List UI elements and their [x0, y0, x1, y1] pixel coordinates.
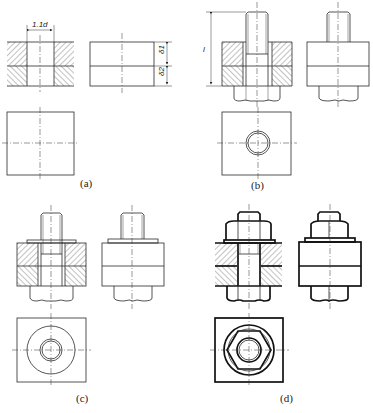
panel-a-top-view	[2, 107, 79, 180]
panel-d-front-section	[215, 204, 282, 309]
hole-diameter-label: 1.1d	[32, 20, 48, 29]
panel-d-label: (d)	[280, 392, 293, 405]
delta2-label: δ2	[157, 67, 166, 76]
panel-a-side-view: δ1 δ2	[90, 33, 172, 93]
panel-d-side-view	[299, 204, 361, 309]
panel-c-side-view	[102, 205, 164, 309]
panel-b-side-view	[307, 2, 369, 108]
panel-d: (d)	[210, 204, 361, 405]
delta1-label: δ1	[157, 45, 166, 54]
bolt-assembly-drawing: 1.1d δ1 δ2 (a)	[0, 0, 373, 413]
panel-d-top-view	[210, 313, 289, 387]
panel-a: 1.1d δ1 δ2 (a)	[2, 20, 172, 190]
panel-c-top-view	[12, 313, 91, 387]
panel-b-top-view	[217, 107, 297, 180]
panel-b: l (b)	[203, 2, 369, 192]
bolt-length-label: l	[203, 45, 205, 54]
panel-a-label: (a)	[80, 177, 93, 190]
panel-c-label: (c)	[76, 392, 89, 405]
panel-a-front-section: 1.1d	[7, 20, 74, 92]
panel-c-front-section	[17, 205, 86, 309]
panel-b-front-section: l	[203, 2, 292, 108]
panel-c: (c)	[12, 205, 164, 405]
panel-b-label: (b)	[251, 179, 264, 192]
